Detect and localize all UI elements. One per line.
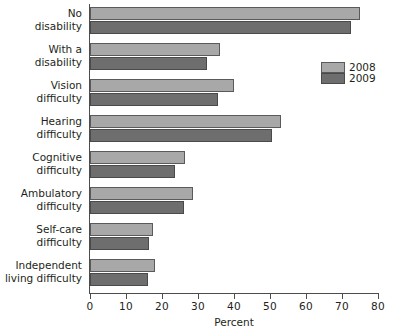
plot-area: NodisabilityWith adisabilityVisiondiffic… xyxy=(90,4,378,293)
bar-2008 xyxy=(90,223,153,236)
category-label: Self-caredifficulty xyxy=(0,223,82,248)
category-label: Ambulatorydifficulty xyxy=(0,187,82,212)
x-axis-title: Percent xyxy=(89,316,379,328)
bar-2008 xyxy=(90,115,281,128)
x-tick xyxy=(270,294,271,299)
bar-2009 xyxy=(90,237,149,250)
x-tick-label: 70 xyxy=(322,300,362,312)
bar-chart: NodisabilityWith adisabilityVisiondiffic… xyxy=(0,0,393,333)
x-tick-label: 20 xyxy=(142,300,182,312)
bar-2009 xyxy=(90,57,207,70)
bar-2008 xyxy=(90,43,220,56)
bar-2008 xyxy=(90,7,360,20)
bar-2009 xyxy=(90,21,351,34)
x-tick xyxy=(126,294,127,299)
bar-2009 xyxy=(90,129,272,142)
x-tick-label: 50 xyxy=(250,300,290,312)
x-tick xyxy=(198,294,199,299)
category-label: Visiondifficulty xyxy=(0,79,82,104)
x-tick xyxy=(378,294,379,299)
bar-2008 xyxy=(90,187,193,200)
legend-swatch-2008 xyxy=(321,62,345,73)
category-label: Hearingdifficulty xyxy=(0,115,82,140)
category-label: Nodisability xyxy=(0,7,82,32)
x-tick xyxy=(162,294,163,299)
bar-2009 xyxy=(90,201,184,214)
legend-swatch-2009 xyxy=(321,73,345,84)
bar-2008 xyxy=(90,259,155,272)
bar-2009 xyxy=(90,93,218,106)
x-tick-label: 0 xyxy=(70,300,110,312)
x-tick xyxy=(342,294,343,299)
x-tick-label: 40 xyxy=(214,300,254,312)
bar-2008 xyxy=(90,79,234,92)
category-label: With adisability xyxy=(0,43,82,68)
x-tick-label: 60 xyxy=(286,300,326,312)
x-tick xyxy=(234,294,235,299)
category-label: Cognitivedifficulty xyxy=(0,151,82,176)
category-label: Independentliving difficulty xyxy=(0,259,82,284)
bar-2008 xyxy=(90,151,185,164)
bar-2009 xyxy=(90,165,175,178)
x-tick-label: 30 xyxy=(178,300,218,312)
x-tick-label: 80 xyxy=(358,300,393,312)
x-tick xyxy=(90,294,91,299)
x-tick xyxy=(306,294,307,299)
bar-2009 xyxy=(90,273,148,286)
x-tick-label: 10 xyxy=(106,300,146,312)
legend-label-2009: 2009 xyxy=(349,72,376,84)
